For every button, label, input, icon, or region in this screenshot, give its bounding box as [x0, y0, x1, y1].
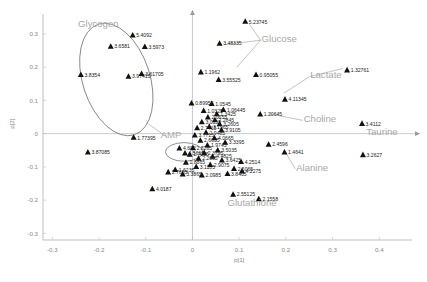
x-tick-label: 0.4: [375, 246, 384, 253]
data-point-marker: [230, 191, 236, 197]
data-point-marker: [201, 107, 207, 113]
data-point-marker: [198, 69, 204, 75]
data-point-label: 5.23745: [249, 19, 268, 25]
data-point-label: 3.8405: [231, 171, 247, 177]
x-tick-label: -0.2: [94, 246, 105, 253]
data-point-marker: [217, 40, 223, 46]
data-point-label: 0.95055: [260, 72, 279, 78]
data-points: 5.40923.65813.59735.237453.483353.83543.…: [78, 18, 382, 202]
data-point-label: 2.4596: [272, 141, 288, 147]
data-point-label: 3.3395: [229, 139, 245, 145]
data-point-label: 4.11345: [289, 96, 307, 102]
data-point-label: 2.0985: [205, 172, 221, 178]
y-tick-label: 0.2: [29, 63, 38, 70]
data-point-marker: [78, 71, 84, 77]
data-point-marker: [142, 44, 148, 50]
data-point-label: 3.2627: [367, 152, 383, 158]
x-axis-title: p[1]: [234, 256, 245, 263]
data-point-label: 1.4641: [288, 149, 304, 155]
data-point-label: 3.55525: [222, 77, 241, 83]
data-point-label: 3.3865: [186, 171, 202, 177]
y-tick-label: -0.1: [27, 163, 38, 170]
data-point-marker: [176, 145, 182, 151]
data-point-label: 3.5973: [148, 44, 164, 50]
data-point-marker: [359, 120, 365, 126]
y-tick-label: 0.3: [29, 30, 38, 37]
x-tick-label: 0: [191, 246, 195, 253]
y-tick-label: -0.2: [27, 196, 38, 203]
data-point-label: 2.7655: [172, 169, 188, 175]
data-point-marker: [360, 152, 366, 158]
data-point-marker: [199, 119, 205, 125]
region-label-glucose: Glucose: [262, 33, 297, 44]
data-point-marker: [257, 111, 263, 117]
data-point-marker: [108, 43, 114, 49]
data-point-marker: [149, 186, 155, 192]
region-label-alanine: Alanine: [296, 162, 328, 173]
data-point-label: 3.87085: [91, 149, 110, 155]
data-point-label: 1.32761: [351, 67, 370, 73]
data-point-label: 1.20645: [264, 111, 283, 117]
data-point-marker: [183, 159, 189, 165]
data-point-label: 3.8354: [84, 72, 100, 78]
data-point-marker: [266, 141, 272, 147]
data-point-label: 3.5035: [221, 147, 237, 153]
plot-canvas: -0.3-0.2-0.100.10.20.30.40.30.20.10-0.1-…: [0, 0, 427, 282]
data-point-marker: [194, 125, 200, 131]
data-point-label: 5.4092: [136, 32, 152, 38]
data-point-label: 3.6581: [114, 43, 130, 49]
data-point-marker: [242, 18, 248, 24]
data-point-label: 3.48335: [223, 40, 242, 46]
region-label-glutathione: Glutathione: [228, 197, 277, 208]
annotation-leader-line: [249, 24, 260, 40]
x-tick-label: 0.2: [282, 246, 291, 253]
region-label-taurine: Taurine: [366, 126, 397, 137]
data-point-marker: [344, 67, 350, 73]
data-point-label: 1.77395: [137, 135, 156, 141]
data-point-marker: [253, 71, 259, 77]
x-tick-label: 0.3: [328, 246, 337, 253]
x-tick-label: 0.1: [235, 246, 244, 253]
y-axis-arrow: [190, 10, 195, 15]
y-tick-label: 0: [35, 130, 39, 137]
data-point-marker: [125, 73, 131, 79]
x-axis-arrow: [415, 131, 420, 136]
data-point-marker: [282, 96, 288, 102]
y-tick-label: -0.3: [27, 230, 38, 237]
data-point-label: 3.1185: [200, 164, 215, 170]
loadings-scatter-plot: -0.3-0.2-0.100.10.20.30.40.30.20.10-0.1-…: [0, 0, 427, 282]
leader-lines: [147, 24, 343, 169]
y-axis-title: p[2]: [8, 118, 15, 129]
data-point-label: 4.2514: [245, 159, 261, 165]
annotation-leader-line: [286, 153, 295, 169]
data-point-marker: [130, 32, 136, 38]
annotation-leader-line: [284, 76, 310, 93]
data-point-marker: [216, 76, 222, 82]
data-point-marker: [165, 169, 171, 175]
region-label-lactate: Lactate: [310, 69, 341, 80]
x-tick-label: -0.1: [140, 246, 151, 253]
data-point-marker: [189, 100, 195, 106]
region-label-amp: AMP: [161, 129, 182, 140]
data-point-label: 3.61705: [145, 71, 164, 77]
data-point-label: 1.1962: [204, 69, 220, 75]
region-label-glycogen: Glycogen: [78, 18, 119, 29]
data-point-label: 4.2275: [246, 168, 262, 174]
data-point-marker: [225, 171, 231, 177]
x-tick-label: -0.3: [47, 246, 58, 253]
data-point-label: 4.0187: [156, 186, 172, 192]
data-point-label: 3.9105: [225, 127, 241, 133]
y-tick-label: 0.1: [29, 97, 38, 104]
data-point-marker: [85, 149, 91, 155]
region-label-choline: Choline: [304, 113, 337, 124]
data-point-marker: [281, 149, 287, 155]
legend-placeholder: [397, 3, 423, 10]
data-point-label: 2.9075: [214, 162, 230, 168]
